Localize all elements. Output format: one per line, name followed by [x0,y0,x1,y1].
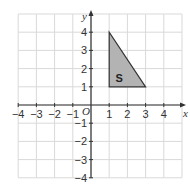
x-tick-label: 1 [106,108,112,120]
y-tick-label: 2 [81,63,87,75]
y-tick-label: −3 [74,154,87,166]
coordinate-grid-diagram: S −4−3−2−112344321−1−2−3−4 x y O [0,0,190,194]
y-tick-label: −4 [74,172,87,184]
y-tick-label: 1 [81,81,87,93]
y-tick-label: −1 [74,117,87,129]
x-tick-label: 2 [124,108,130,120]
y-axis-label: y [81,10,87,22]
x-tick-label: 3 [143,108,149,120]
y-tick-label: 4 [81,26,87,38]
grid-canvas: S −4−3−2−112344321−1−2−3−4 x y O [0,0,190,194]
shape-label-s: S [116,72,123,84]
x-tick-label: −2 [48,108,61,120]
x-tick-label: −3 [30,108,43,120]
origin-label: O [82,105,90,117]
y-axis-arrow-icon [89,10,94,16]
gridlines [18,14,182,178]
y-tick-label: −2 [74,135,87,147]
x-tick-label: 4 [161,108,167,120]
x-axis-label: x [182,107,188,119]
y-tick-label: 3 [81,44,87,56]
x-tick-label: −4 [12,108,25,120]
axes [18,10,186,178]
